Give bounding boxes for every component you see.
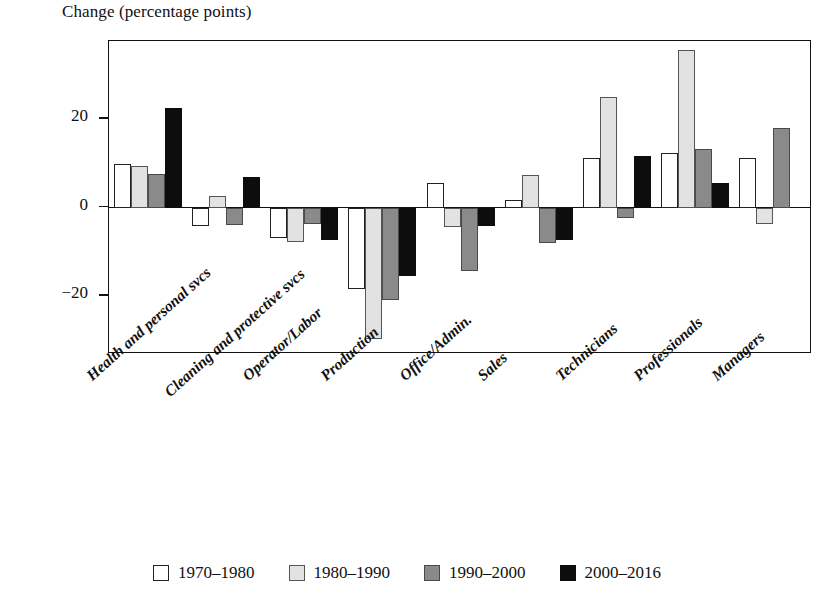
bar-7-3 <box>712 183 729 208</box>
legend-item-0[interactable]: 1970–1980 <box>153 563 255 583</box>
bar-5-3 <box>556 208 573 240</box>
bar-8-1 <box>756 208 773 224</box>
y-tick-label: 0 <box>80 195 89 215</box>
bar-8-2 <box>773 128 790 208</box>
plot-area <box>108 40 811 353</box>
bar-1-1 <box>209 196 226 208</box>
bar-2-2 <box>304 208 321 224</box>
bar-4-1 <box>444 208 461 228</box>
bar-7-0 <box>661 153 678 208</box>
bar-6-1 <box>600 97 617 207</box>
y-axis-title: Change (percentage points) <box>62 2 252 22</box>
legend-item-1[interactable]: 1980–1990 <box>289 563 391 583</box>
light-gray-square-icon <box>289 565 305 581</box>
bar-0-1 <box>131 166 148 208</box>
bar-6-3 <box>634 156 651 207</box>
x-label-5: Sales <box>474 349 511 385</box>
black-square-icon <box>560 565 576 581</box>
bar-2-0 <box>270 208 287 239</box>
bar-4-0 <box>427 183 444 208</box>
white-square-icon <box>153 565 169 581</box>
y-tick-mark <box>99 117 108 119</box>
x-axis-category-labels: Health and personal svcsCleaning and pro… <box>0 353 814 543</box>
bar-7-1 <box>678 50 695 208</box>
bar-0-0 <box>114 164 131 207</box>
bar-2-1 <box>287 208 304 243</box>
bar-3-2 <box>382 208 399 301</box>
bar-6-0 <box>583 158 600 208</box>
y-tick-mark <box>99 206 108 208</box>
bar-5-1 <box>522 175 539 207</box>
chart-legend: 1970–19801980–19901990–20002000–2016 <box>0 558 814 588</box>
legend-label: 1980–1990 <box>314 563 391 583</box>
bars-container <box>109 41 810 352</box>
bar-2-3 <box>321 208 338 240</box>
bar-6-2 <box>617 208 634 219</box>
legend-label: 1970–1980 <box>178 563 255 583</box>
bar-3-1 <box>365 208 382 339</box>
legend-item-3[interactable]: 2000–2016 <box>560 563 662 583</box>
bar-8-0 <box>739 158 756 207</box>
bar-1-2 <box>226 208 243 226</box>
y-tick-mark <box>99 294 108 296</box>
legend-label: 2000–2016 <box>585 563 662 583</box>
bar-7-2 <box>695 149 712 208</box>
legend-item-2[interactable]: 1990–2000 <box>424 563 526 583</box>
bar-5-2 <box>539 208 556 243</box>
bar-4-3 <box>478 208 495 227</box>
y-tick-label: 20 <box>71 106 88 126</box>
y-tick-label: −20 <box>61 283 88 303</box>
legend-label: 1990–2000 <box>449 563 526 583</box>
bar-4-2 <box>461 208 478 271</box>
bar-0-2 <box>148 174 165 208</box>
bar-chart: Change (percentage points) 200−20 Health… <box>0 0 814 594</box>
bar-1-0 <box>192 208 209 227</box>
bar-5-0 <box>505 200 522 208</box>
bar-3-0 <box>348 208 365 290</box>
medium-gray-square-icon <box>424 565 440 581</box>
bar-0-3 <box>165 108 182 207</box>
bar-1-3 <box>243 177 260 208</box>
bar-3-3 <box>399 208 416 276</box>
